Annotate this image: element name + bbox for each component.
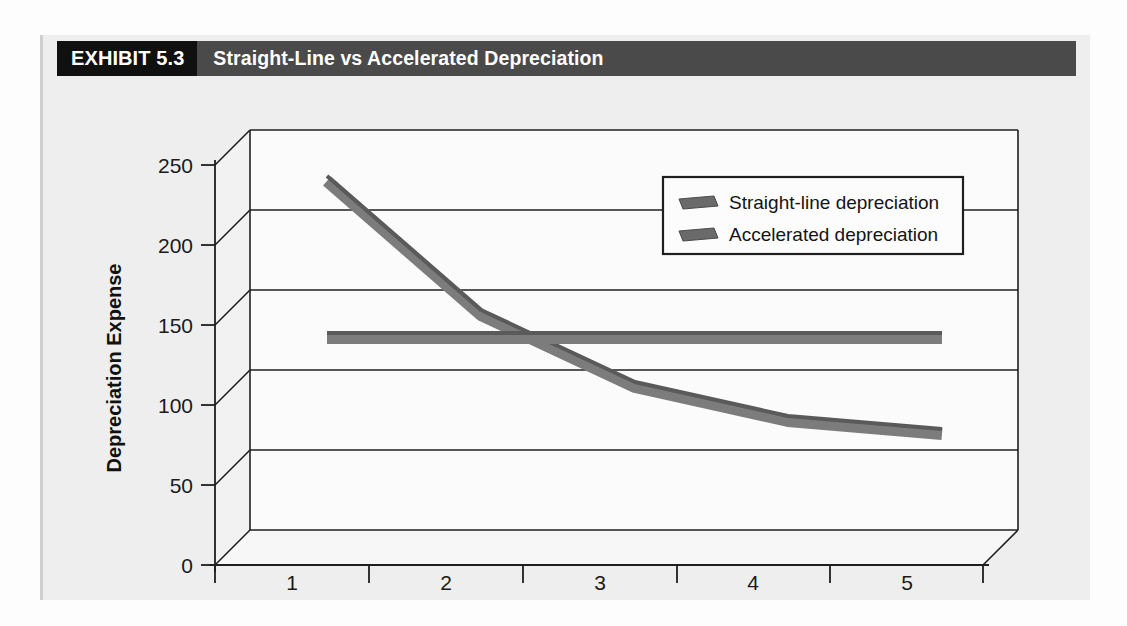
y-axis-title: Depreciation Expense (103, 264, 125, 473)
y-tick-label: 150 (158, 314, 193, 337)
y-tick-label: 0 (181, 554, 193, 577)
legend-label: Accelerated depreciation (729, 224, 938, 245)
y-axis-tick-labels: 250 200 150 100 50 0 (158, 154, 193, 577)
x-tick-label: 1 (286, 571, 298, 594)
x-tick-label: 5 (901, 571, 913, 594)
x-tick-label: 3 (594, 571, 606, 594)
x-axis-tick-labels: 1 2 3 4 5 (286, 571, 913, 594)
y-tick-label: 200 (158, 234, 193, 257)
y-tick-label: 50 (170, 474, 193, 497)
exhibit-panel: EXHIBIT 5.3 Straight-Line vs Accelerated… (43, 35, 1090, 600)
chart-figure: 250 200 150 100 50 0 Depreciation Expens… (43, 76, 1090, 600)
x-tick-label: 2 (440, 571, 452, 594)
y-tick-label: 250 (158, 154, 193, 177)
y-tick-label: 100 (158, 394, 193, 417)
exhibit-tag-label: EXHIBIT 5.3 (57, 41, 197, 76)
legend-label: Straight-line depreciation (729, 192, 939, 213)
series-straight-line-depreciation (327, 333, 942, 338)
chart-legend[interactable]: Straight-line depreciation Accelerated d… (663, 177, 963, 254)
chart-svg: 250 200 150 100 50 0 Depreciation Expens… (43, 76, 1090, 600)
plot-side-wall (215, 130, 250, 565)
x-tick-label: 4 (747, 571, 759, 594)
exhibit-header: EXHIBIT 5.3 Straight-Line vs Accelerated… (57, 41, 1076, 76)
y-axis-ticks (201, 165, 215, 565)
plot-floor (215, 530, 1018, 565)
exhibit-title: Straight-Line vs Accelerated Depreciatio… (197, 47, 603, 70)
